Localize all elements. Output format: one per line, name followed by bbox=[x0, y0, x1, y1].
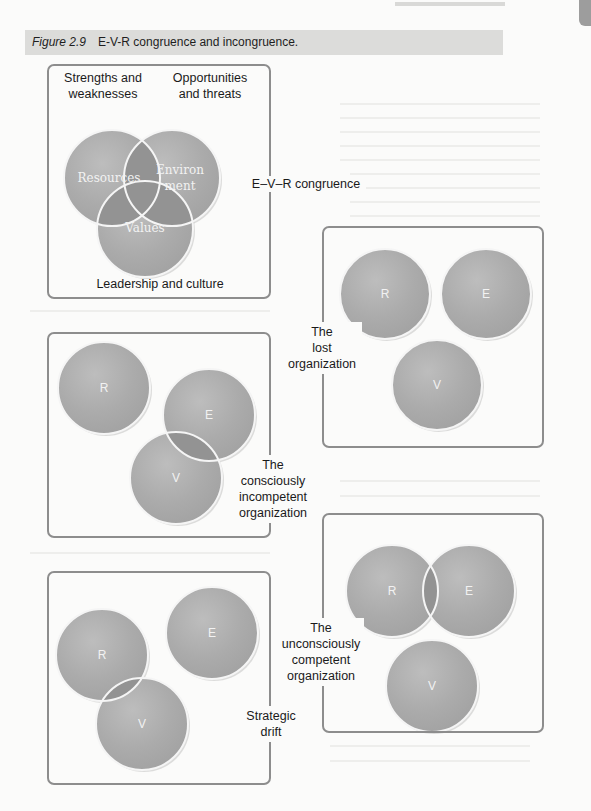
circle-e: E bbox=[202, 625, 222, 641]
figure-number: Figure 2.9 bbox=[32, 35, 86, 49]
figure-caption: Figure 2.9E-V-R congruence and incongrue… bbox=[25, 30, 503, 55]
label-line: The bbox=[238, 457, 308, 473]
panel-label-unconsciously-competent: The unconsciously competent organization bbox=[278, 618, 364, 686]
circle-label: E bbox=[465, 584, 473, 598]
opportunities-threats-label: Opportunities and threats bbox=[168, 70, 252, 102]
circle-e: E bbox=[199, 407, 219, 423]
leadership-culture-label: Leadership and culture bbox=[80, 276, 240, 292]
label-line: weaknesses bbox=[58, 86, 148, 102]
strengths-weaknesses-label: Strengths and weaknesses bbox=[58, 70, 148, 102]
circle-label: V bbox=[172, 471, 180, 485]
label-line: competent bbox=[278, 652, 364, 668]
circle-label: ment bbox=[152, 178, 208, 194]
panel-strategic-drift bbox=[47, 571, 271, 785]
circle-environment: Environ ment bbox=[152, 162, 208, 194]
circle-e: E bbox=[459, 583, 479, 599]
circle-label: R bbox=[381, 287, 390, 301]
label-line: Strengths and bbox=[58, 70, 148, 86]
circle-e: E bbox=[476, 286, 496, 302]
label-line: drift bbox=[240, 724, 302, 740]
circle-v: V bbox=[132, 716, 152, 732]
label-text: Leadership and culture bbox=[96, 277, 223, 291]
label-line: incompetent bbox=[238, 489, 308, 505]
circle-label: E bbox=[205, 408, 213, 422]
label-text: E–V–R congruence bbox=[252, 177, 360, 191]
circle-label: V bbox=[138, 717, 146, 731]
label-line: Opportunities bbox=[168, 70, 252, 86]
circle-r: R bbox=[92, 647, 112, 663]
circle-values: Values bbox=[115, 220, 175, 236]
circle-resources: Resources bbox=[74, 170, 144, 186]
panel-label-consciously-incompetent: The consciously incompetent organization bbox=[238, 455, 308, 523]
circle-v: V bbox=[166, 470, 186, 486]
circle-label: E bbox=[482, 287, 490, 301]
circle-r: R bbox=[94, 380, 114, 396]
panel-label-lost: The lost organization bbox=[282, 322, 362, 374]
circle-label: Resources bbox=[78, 171, 141, 185]
label-line: Strategic bbox=[240, 708, 302, 724]
label-line: organization bbox=[282, 356, 362, 372]
label-line: The bbox=[282, 324, 362, 340]
figure-title: E-V-R congruence and incongruence. bbox=[98, 35, 298, 49]
panel-label-congruence: E–V–R congruence bbox=[246, 176, 366, 192]
circle-label: R bbox=[388, 584, 397, 598]
label-line: lost bbox=[282, 340, 362, 356]
label-line: consciously bbox=[238, 473, 308, 489]
label-line: organization bbox=[278, 668, 364, 684]
circle-label: R bbox=[100, 381, 109, 395]
circle-r: R bbox=[375, 286, 395, 302]
circle-label: E bbox=[208, 626, 216, 640]
chapter-edge-tab bbox=[579, 0, 591, 26]
circle-v: V bbox=[427, 377, 447, 393]
panel-label-strategic-drift: Strategic drift bbox=[240, 706, 302, 742]
label-line: unconsciously bbox=[278, 636, 364, 652]
circle-label: R bbox=[98, 648, 107, 662]
label-line: and threats bbox=[168, 86, 252, 102]
circle-label: V bbox=[428, 679, 436, 693]
circle-r: R bbox=[382, 583, 402, 599]
circle-v: V bbox=[422, 678, 442, 694]
circle-label: Values bbox=[125, 221, 165, 235]
circle-label: V bbox=[433, 378, 441, 392]
circle-label: Environ bbox=[152, 162, 208, 178]
label-line: organization bbox=[238, 505, 308, 521]
label-line: The bbox=[278, 620, 364, 636]
running-header bbox=[395, 2, 505, 6]
